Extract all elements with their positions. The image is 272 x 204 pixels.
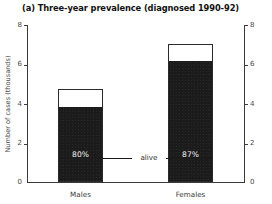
plot-area: 8 6 4 2 0 8 6 4 2 0 Number of cases (tho… [27,25,245,183]
left-ticklabel-0: 0 [18,179,22,186]
right-tick-2 [245,144,248,145]
right-ticklabel-6: 6 [250,61,254,68]
alive-annotation-label: alive [132,154,166,162]
y-axis-title: Number of cases (thousands) [4,55,12,152]
right-ticklabel-2: 2 [250,140,254,147]
left-tick-6 [24,65,27,66]
right-tick-8 [245,25,248,26]
right-tick-6 [245,65,248,66]
category-label-females: Females [168,191,213,199]
left-axis-line [27,25,28,183]
alive-connector-left [99,158,132,159]
chart-title: (a) Three-year prevalence (diagnosed 199… [22,3,239,13]
bar-males-alive-fill [59,107,102,181]
alive-connector-right [166,158,212,159]
bar-females-alive-fill [169,61,212,181]
right-ticklabel-0: 0 [250,179,254,186]
right-ticklabel-8: 8 [250,22,254,29]
left-tick-8 [24,25,27,26]
left-ticklabel-2: 2 [18,140,22,147]
bar-females[interactable]: 87% [168,44,213,182]
left-tick-4 [24,104,27,105]
left-ticklabel-8: 8 [18,22,22,29]
bar-males-pct-label: 80% [59,151,102,159]
left-tick-2 [24,144,27,145]
left-ticklabel-6: 6 [18,61,22,68]
bar-males[interactable]: 80% [58,89,103,182]
left-ticklabel-4: 4 [18,101,22,108]
right-tick-4 [245,104,248,105]
bottom-axis-line [27,182,245,183]
right-ticklabel-4: 4 [250,101,254,108]
category-label-males: Males [58,191,103,199]
chart-figure: (a) Three-year prevalence (diagnosed 199… [0,0,272,204]
